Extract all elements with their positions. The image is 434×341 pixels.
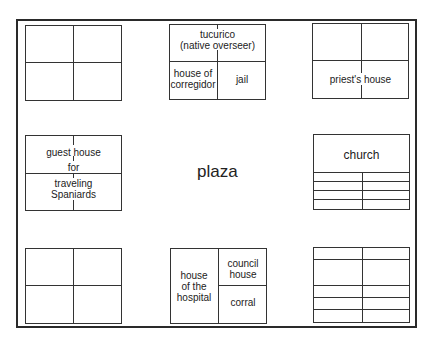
divider [73,200,74,211]
divider [73,135,74,145]
label-spaniards: Spaniards [25,189,122,200]
divider [218,285,267,286]
label-council-house: house [219,269,267,280]
divider [313,259,410,260]
divider [73,248,74,324]
divider [361,85,362,99]
divider [25,62,122,63]
divider [313,297,410,298]
divider [361,23,362,73]
label-corregidor: corregidor [169,79,217,90]
divider [313,309,410,310]
label-corral: corral [219,297,267,308]
label-traveling: traveling [25,178,122,189]
plaza-label: plaza [197,162,238,182]
label-council: council [219,258,267,269]
label-priests-house: priest's house [312,74,409,85]
label-of-the: of the [170,281,218,292]
label-for: for [25,162,122,173]
label-church: church [313,148,410,162]
label-jail: jail [218,74,266,85]
label-house: house [170,270,218,281]
label-tucurico: tucurico [169,29,266,40]
divider [313,285,410,286]
label-hospital: hospital [170,292,218,303]
divider [362,172,363,210]
divider [73,25,74,101]
label-native-overseer: (native overseer) [169,40,266,51]
label-guest-house: guest house [25,147,122,158]
divider [25,285,122,286]
label-house-of: house of [169,68,217,79]
